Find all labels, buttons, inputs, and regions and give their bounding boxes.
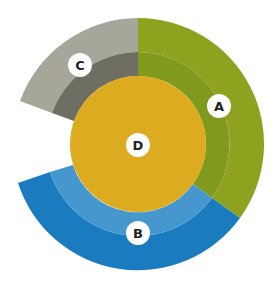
badge-a-label: A: [214, 99, 224, 114]
ring-diagram: A B C D: [0, 0, 278, 288]
badge-a: A: [207, 94, 231, 118]
badge-d-label: D: [133, 138, 144, 153]
badge-c-label: C: [75, 58, 85, 73]
badge-b-label: B: [133, 226, 143, 241]
badge-d: D: [126, 133, 150, 157]
badge-c: C: [68, 53, 92, 77]
badge-b: B: [126, 221, 150, 245]
